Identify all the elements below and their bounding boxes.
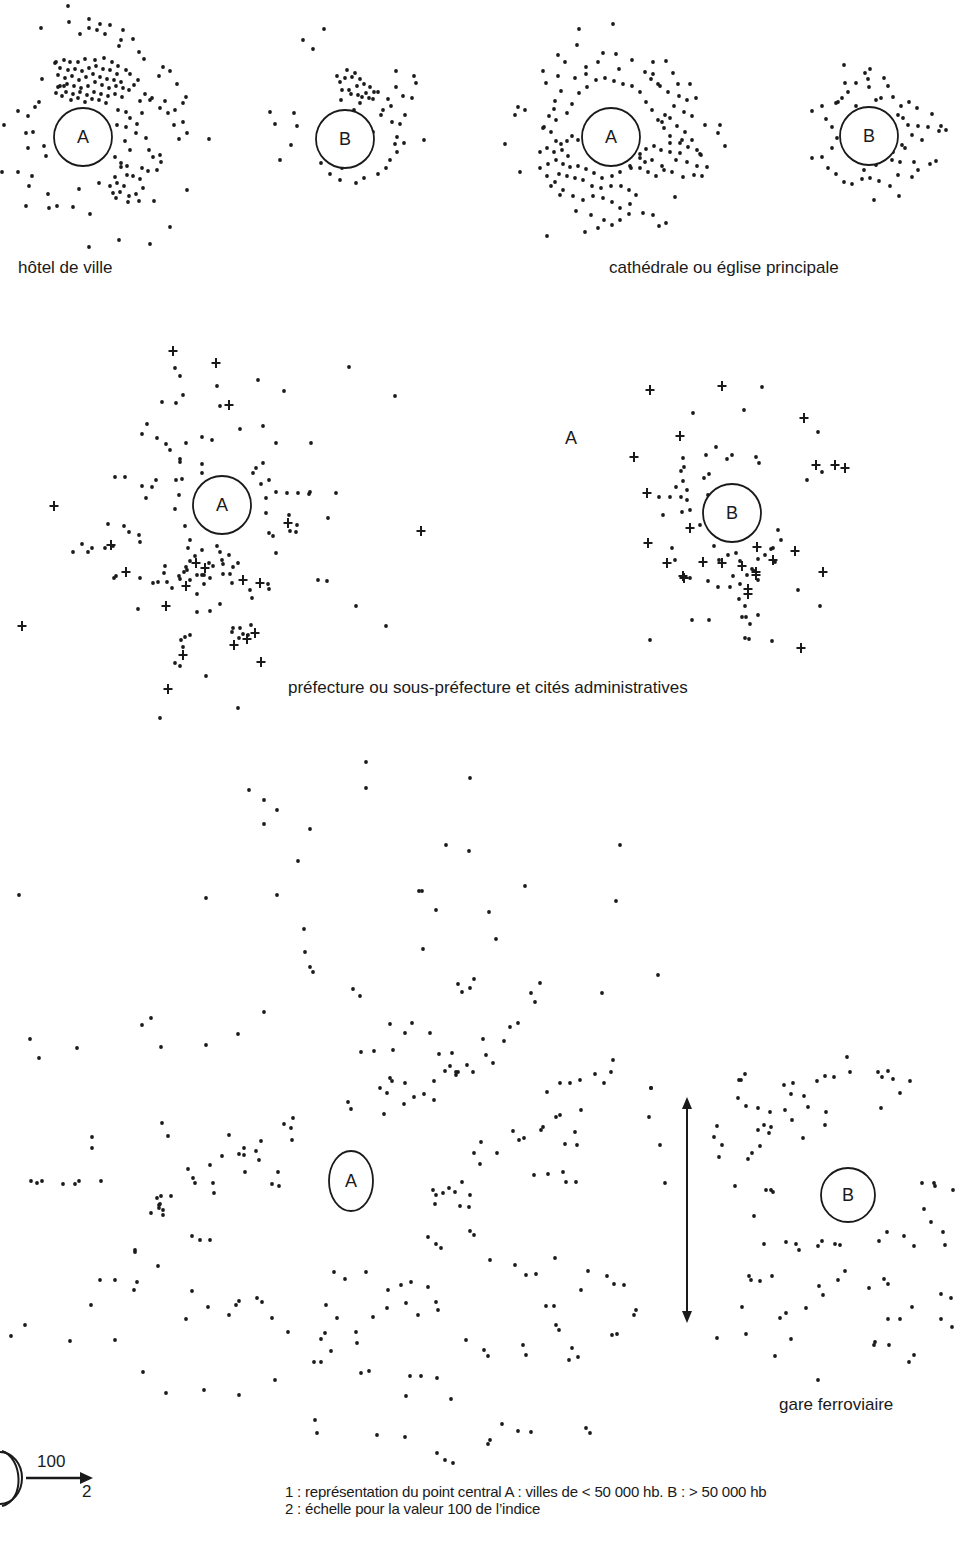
data-dot xyxy=(163,564,167,568)
data-dot xyxy=(545,234,549,238)
data-dot xyxy=(618,206,622,210)
data-dot xyxy=(738,582,742,586)
data-dot xyxy=(458,1204,462,1208)
data-dot xyxy=(903,146,907,150)
data-dot xyxy=(495,1151,499,1155)
data-dot xyxy=(621,82,625,86)
data-dot xyxy=(434,1300,438,1304)
data-dot xyxy=(200,435,204,439)
data-dot xyxy=(668,150,672,154)
data-dot xyxy=(218,404,222,408)
data-dot xyxy=(789,1337,793,1341)
cross-marker-icon xyxy=(50,501,59,511)
data-dot xyxy=(173,366,177,370)
data-dot xyxy=(414,81,418,85)
data-dot xyxy=(647,1115,651,1119)
data-dot xyxy=(478,1162,482,1166)
data-dot xyxy=(661,513,665,517)
data-dot xyxy=(503,142,507,146)
data-dot xyxy=(725,457,729,461)
data-dot xyxy=(119,161,123,165)
data-dot xyxy=(435,1451,439,1455)
data-dot xyxy=(384,624,388,628)
data-dot xyxy=(627,188,631,192)
data-dot xyxy=(338,178,342,182)
data-dot xyxy=(910,1305,914,1309)
data-dot xyxy=(949,1296,953,1300)
data-dot xyxy=(471,1070,475,1074)
data-dot xyxy=(685,498,689,502)
data-dot xyxy=(702,476,706,480)
cross-marker-icon xyxy=(699,557,708,567)
data-dot xyxy=(98,75,102,79)
data-dot xyxy=(468,1229,472,1233)
data-dot xyxy=(379,113,383,117)
data-dot xyxy=(672,104,676,108)
data-dot xyxy=(682,465,686,469)
data-dot xyxy=(123,139,127,143)
data-dot xyxy=(16,109,20,113)
data-dot xyxy=(622,1283,626,1287)
data-dot xyxy=(121,86,125,90)
data-dot xyxy=(382,1112,386,1116)
data-dot xyxy=(395,135,399,139)
data-dot xyxy=(117,44,121,48)
data-dot xyxy=(180,477,184,481)
data-dot xyxy=(88,212,92,216)
data-dot xyxy=(175,82,179,86)
data-dot xyxy=(354,181,358,185)
data-dot xyxy=(816,430,820,434)
data-dot xyxy=(441,1191,445,1195)
data-dot xyxy=(116,64,120,68)
data-dot xyxy=(319,1360,323,1364)
data-dot xyxy=(97,98,101,102)
data-dot xyxy=(241,632,245,636)
data-dot xyxy=(670,170,674,174)
data-dot xyxy=(796,588,800,592)
data-dot xyxy=(651,213,655,217)
data-dot xyxy=(302,927,306,931)
data-dot xyxy=(472,977,476,981)
data-dot xyxy=(898,160,902,164)
data-dot xyxy=(717,1155,721,1159)
data-dot xyxy=(237,1393,241,1397)
data-dot xyxy=(282,389,286,393)
data-dot xyxy=(444,843,448,847)
data-dot xyxy=(576,1355,580,1359)
data-dot xyxy=(259,1139,263,1143)
caption-prefecture: préfecture ou sous-préfecture et cités a… xyxy=(288,678,688,698)
data-dot xyxy=(707,472,711,476)
data-dot xyxy=(141,1370,145,1374)
data-dot xyxy=(345,68,349,72)
data-dot xyxy=(339,98,343,102)
data-dot xyxy=(523,108,527,112)
data-dot xyxy=(744,1104,748,1108)
data-dot xyxy=(516,105,520,109)
data-dot xyxy=(472,1233,476,1237)
data-dot xyxy=(794,1242,798,1246)
data-dot xyxy=(664,221,668,225)
data-dot xyxy=(690,138,694,142)
data-dot xyxy=(472,1151,476,1155)
data-dot xyxy=(821,1293,825,1297)
data-dot xyxy=(343,76,347,80)
cross-marker-icon xyxy=(841,463,850,473)
data-dot xyxy=(910,175,914,179)
data-dot xyxy=(728,585,732,589)
data-dot xyxy=(278,158,282,162)
data-dot xyxy=(715,1336,719,1340)
data-dot xyxy=(166,1134,170,1138)
data-dot xyxy=(784,1240,788,1244)
data-dot xyxy=(179,638,183,642)
data-dot xyxy=(818,604,822,608)
data-dot xyxy=(712,1135,716,1139)
data-dot xyxy=(912,1244,916,1248)
data-dot xyxy=(898,1317,902,1321)
data-dot xyxy=(482,1348,486,1352)
data-dot xyxy=(174,401,178,405)
data-dot xyxy=(757,461,761,465)
data-dot xyxy=(137,199,141,203)
data-dot xyxy=(402,141,406,145)
data-dot xyxy=(862,168,866,172)
data-dot xyxy=(891,95,895,99)
